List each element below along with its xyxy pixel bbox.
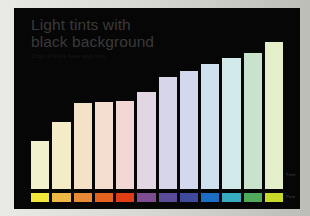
- bar-column: [201, 42, 219, 189]
- bar-column: [116, 42, 134, 189]
- bar-column: [52, 42, 70, 189]
- swatch: [265, 193, 283, 202]
- screenshot-page: Light tints with black background Chart …: [0, 0, 310, 216]
- bar-column: [265, 42, 283, 189]
- swatch: [180, 193, 198, 202]
- edge-label-pure: Pure: [286, 194, 295, 199]
- bar-chart-plot-area: [31, 42, 283, 189]
- edge-label-tints: Tints: [286, 172, 296, 177]
- bar: [201, 64, 219, 189]
- bar-column: [95, 42, 113, 189]
- swatch: [52, 193, 70, 202]
- bar-column: [74, 42, 92, 189]
- bar: [116, 101, 134, 189]
- slide-title-line-1: Light tints with: [31, 17, 261, 34]
- swatch: [137, 193, 155, 202]
- presentation-slide: Light tints with black background Chart …: [14, 8, 300, 209]
- bar: [95, 102, 113, 189]
- bar: [222, 58, 240, 189]
- bar: [265, 42, 283, 189]
- swatch: [201, 193, 219, 202]
- bar-series-tints: [31, 42, 283, 189]
- bar-column: [222, 42, 240, 189]
- swatch: [159, 193, 177, 202]
- bar-column: [137, 42, 155, 189]
- swatch: [222, 193, 240, 202]
- bar-column: [244, 42, 262, 189]
- bar: [52, 122, 70, 189]
- bar: [74, 103, 92, 189]
- bar-column: [159, 42, 177, 189]
- bar-column: [180, 42, 198, 189]
- swatch: [31, 193, 49, 202]
- bar-column: [31, 42, 49, 189]
- bar: [180, 71, 198, 189]
- swatch: [244, 193, 262, 202]
- bar: [159, 77, 177, 189]
- bar: [31, 141, 49, 189]
- pure-hue-swatch-row: [31, 193, 283, 202]
- swatch: [95, 193, 113, 202]
- bar: [244, 53, 262, 189]
- bar: [137, 92, 155, 189]
- swatch: [74, 193, 92, 202]
- swatch: [116, 193, 134, 202]
